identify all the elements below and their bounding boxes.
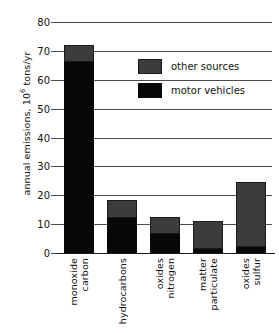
- legend-item-motor-vehicles: motor vehicles: [138, 78, 268, 102]
- y-tick-label-10: 10: [37, 224, 50, 225]
- bar-particulate-matter: [193, 221, 223, 253]
- x-tick-label-line: oxides: [240, 258, 251, 289]
- bar-segment-motor-vehicles: [236, 247, 266, 253]
- y-tick-label-20: 20: [37, 195, 50, 196]
- bar-sulfur-oxides: [236, 182, 266, 253]
- y-tick-label-80: 80: [37, 22, 50, 23]
- bar-nitrogen-oxides: [150, 217, 180, 253]
- bar-segment-other-sources: [107, 200, 137, 219]
- bar-segment-other-sources: [64, 45, 94, 62]
- bar-segment-motor-vehicles: [193, 249, 223, 253]
- y-tick-label-30: 30: [37, 166, 50, 167]
- y-axis-title: annual emissions, 106 tons/yr: [21, 14, 32, 234]
- x-tick-label-line: carbon: [79, 258, 90, 291]
- x-tick-label-line: oxides: [154, 258, 165, 289]
- emissions-bar-chart: annual emissions, 106 tons/yr 0102030405…: [0, 0, 279, 333]
- x-tick-label-line: sulfur: [251, 258, 262, 285]
- y-axis-title-prefix: annual emissions, 10: [21, 93, 32, 196]
- x-tick-label-line: particulate: [208, 258, 219, 311]
- chart-legend: other sources motor vehicles: [138, 54, 268, 102]
- x-tick-label-carbon-monoxide: carbonmonoxide: [57, 254, 100, 333]
- legend-label-motor-vehicles: motor vehicles: [171, 85, 245, 96]
- bar-segment-other-sources: [193, 221, 223, 248]
- y-axis-title-suffix: tons/yr: [21, 52, 32, 89]
- y-tick-label-40: 40: [37, 138, 50, 139]
- x-tick-label-sulfur-oxides: sulfuroxides: [229, 254, 272, 333]
- y-tick-label-60: 60: [37, 80, 50, 81]
- x-tick-label-line: hydrocarbons: [116, 258, 127, 324]
- legend-swatch-other-sources-icon: [138, 59, 162, 74]
- bar-carbon-monoxide: [64, 45, 94, 253]
- y-tick-label-70: 70: [37, 51, 50, 52]
- bar-segment-motor-vehicles: [150, 234, 180, 253]
- y-axis-title-exponent: 6: [19, 89, 27, 93]
- bar-segment-motor-vehicles: [64, 62, 94, 253]
- y-tick-label-0: 0: [44, 253, 50, 254]
- x-tick-label-hydrocarbons: hydrocarbons: [100, 254, 143, 333]
- legend-swatch-motor-vehicles-icon: [138, 83, 162, 98]
- bar-segment-motor-vehicles: [107, 218, 137, 253]
- x-tick-label-line: monoxide: [68, 258, 79, 306]
- y-tick-label-50: 50: [37, 109, 50, 110]
- legend-item-other-sources: other sources: [138, 54, 268, 78]
- legend-label-other-sources: other sources: [171, 61, 239, 72]
- x-tick-label-particulate-matter: particulatematter: [186, 254, 229, 333]
- bar-segment-other-sources: [236, 182, 266, 247]
- x-tick-label-nitrogen-oxides: nitrogenoxides: [143, 254, 186, 333]
- bar-segment-other-sources: [150, 217, 180, 234]
- x-tick-label-line: matter: [197, 258, 208, 291]
- x-tick-label-line: nitrogen: [165, 258, 176, 299]
- bar-hydrocarbons: [107, 200, 137, 253]
- x-axis-category-labels: carbonmonoxidehydrocarbonsnitrogenoxides…: [57, 254, 272, 333]
